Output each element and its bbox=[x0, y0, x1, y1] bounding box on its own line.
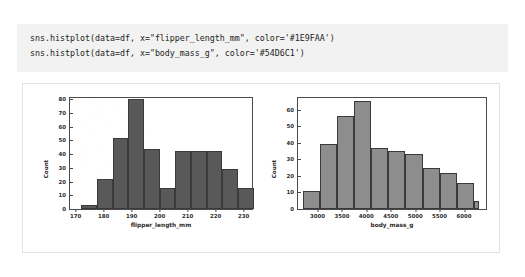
x-tick-label: 3500 bbox=[334, 209, 349, 219]
chart-body-mass-histogram: Count 0102030405060 30003500400045005000… bbox=[259, 93, 493, 245]
left-plot-axes: 01020304050607080 170180190200210220230 bbox=[69, 97, 253, 210]
figure-card: Count 01020304050607080 17018 bbox=[22, 83, 500, 253]
left-x-axis-label: flipper_length_mm bbox=[69, 222, 253, 228]
y-tick-label: 40 bbox=[286, 140, 298, 146]
left-bars bbox=[70, 98, 252, 209]
y-tick-label: 80 bbox=[58, 96, 70, 102]
bar bbox=[474, 201, 479, 209]
bar bbox=[354, 101, 371, 209]
y-tick-label: 10 bbox=[58, 192, 70, 198]
bar bbox=[388, 151, 405, 209]
right-x-axis-label: body_mass_g bbox=[297, 222, 487, 228]
bar bbox=[303, 191, 320, 209]
bar bbox=[222, 169, 238, 209]
bar bbox=[113, 138, 129, 209]
x-tick-label: 180 bbox=[98, 209, 109, 219]
y-tick-label: 30 bbox=[286, 156, 298, 162]
x-tick-label: 5000 bbox=[408, 209, 423, 219]
y-tick-label: 70 bbox=[58, 110, 70, 116]
y-tick-label: 50 bbox=[58, 137, 70, 143]
bar bbox=[97, 179, 113, 209]
y-tick-label: 60 bbox=[286, 107, 298, 113]
code-line-2: sns.histplot(data=df, x="body_mass_g", c… bbox=[30, 46, 508, 61]
x-tick-label: 200 bbox=[154, 209, 165, 219]
bar bbox=[238, 188, 254, 209]
bar bbox=[160, 188, 176, 209]
chart-flipper-length-histogram: Count 01020304050607080 17018 bbox=[31, 93, 259, 245]
bar bbox=[191, 151, 207, 209]
bar bbox=[207, 151, 223, 209]
y-tick-label: 0 bbox=[290, 206, 298, 212]
x-tick-label: 3000 bbox=[310, 209, 325, 219]
bar bbox=[144, 149, 160, 209]
right-bars bbox=[298, 98, 486, 209]
x-tick-label: 170 bbox=[70, 209, 81, 219]
y-tick-label: 40 bbox=[58, 151, 70, 157]
right-plot-area bbox=[298, 98, 486, 209]
code-line-1: sns.histplot(data=df, x="flipper_length_… bbox=[30, 31, 508, 46]
right-plot-axes: 0102030405060 30003500400045005000550060… bbox=[297, 97, 487, 210]
bar bbox=[457, 183, 474, 210]
bar bbox=[320, 144, 337, 209]
x-tick-label: 4500 bbox=[383, 209, 398, 219]
x-tick-label: 5500 bbox=[432, 209, 447, 219]
y-tick-label: 50 bbox=[286, 123, 298, 129]
y-tick-label: 20 bbox=[286, 173, 298, 179]
y-tick-label: 10 bbox=[286, 189, 298, 195]
bar bbox=[371, 148, 388, 209]
y-tick-label: 0 bbox=[62, 206, 70, 212]
bar bbox=[423, 168, 440, 209]
x-tick-label: 4000 bbox=[359, 209, 374, 219]
bar bbox=[81, 205, 97, 209]
right-y-axis-label: Count bbox=[271, 160, 277, 179]
y-tick-label: 30 bbox=[58, 165, 70, 171]
left-y-axis-label: Count bbox=[43, 160, 49, 179]
bar bbox=[175, 151, 191, 209]
bar bbox=[337, 116, 354, 209]
x-tick-label: 220 bbox=[210, 209, 221, 219]
x-tick-label: 210 bbox=[182, 209, 193, 219]
x-tick-label: 230 bbox=[238, 209, 249, 219]
y-tick-label: 20 bbox=[58, 179, 70, 185]
bar bbox=[440, 173, 457, 209]
x-tick-label: 6000 bbox=[457, 209, 472, 219]
left-plot-area bbox=[70, 98, 252, 209]
code-block: sns.histplot(data=df, x="flipper_length_… bbox=[17, 24, 508, 72]
bar bbox=[128, 99, 144, 209]
y-tick-label: 60 bbox=[58, 124, 70, 130]
x-tick-label: 190 bbox=[126, 209, 137, 219]
bar bbox=[405, 154, 422, 209]
